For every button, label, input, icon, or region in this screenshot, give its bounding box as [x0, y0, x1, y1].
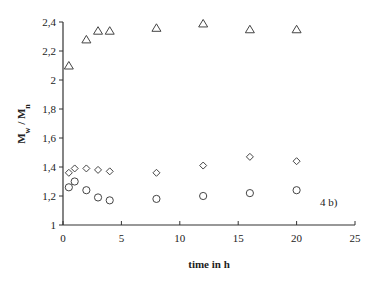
circle-marker [94, 194, 101, 201]
y-tick-label: 2 [51, 74, 57, 86]
circle-marker [153, 195, 160, 202]
triangle-marker [94, 27, 103, 35]
y-tick-label: 2,2 [42, 45, 56, 57]
x-tick-label: 25 [350, 232, 362, 244]
x-axis-title: time in h [188, 258, 230, 270]
circle-marker [83, 187, 90, 194]
circle-marker [246, 190, 253, 197]
triangle-marker [105, 27, 114, 35]
triangle-marker [82, 35, 91, 43]
x-tick-label: 10 [174, 232, 186, 244]
diamond-marker [200, 162, 207, 169]
x-tick-label: 0 [60, 232, 66, 244]
triangle-marker [64, 62, 73, 70]
y-tick-label: 1,8 [42, 103, 56, 115]
x-tick-label: 20 [291, 232, 303, 244]
circle-marker [71, 178, 78, 185]
panel-annotation: 4 b) [320, 196, 338, 209]
circle-marker [106, 197, 113, 204]
circle-marker [200, 192, 207, 199]
diamond-marker [71, 165, 78, 172]
diamond-marker [95, 166, 102, 173]
axes: 11,21,41,61,822,22,40510152025 [42, 16, 361, 244]
y-tick-label: 1,4 [42, 161, 56, 173]
circle-marker [293, 187, 300, 194]
diamond-marker [293, 158, 300, 165]
triangle-marker [199, 19, 208, 27]
y-tick-label: 2,4 [42, 16, 56, 28]
diamond-marker [246, 153, 253, 160]
diamond-marker [106, 168, 113, 175]
diamond-marker [153, 169, 160, 176]
chart-plot: 11,21,41,61,822,22,40510152025 4 b) time… [0, 0, 376, 284]
triangle-marker [292, 25, 301, 33]
data-markers [64, 19, 301, 204]
y-tick-label: 1,6 [42, 132, 56, 144]
triangle-marker [152, 24, 161, 32]
diamond-marker [83, 165, 90, 172]
diamond-marker [65, 169, 72, 176]
y-axis-title: Mw / Mn [15, 104, 32, 144]
y-tick-label: 1 [51, 219, 57, 231]
y-tick-label: 1,2 [42, 190, 56, 202]
circle-marker [65, 184, 72, 191]
x-tick-label: 5 [119, 232, 125, 244]
x-tick-label: 15 [233, 232, 245, 244]
triangle-marker [245, 25, 254, 33]
